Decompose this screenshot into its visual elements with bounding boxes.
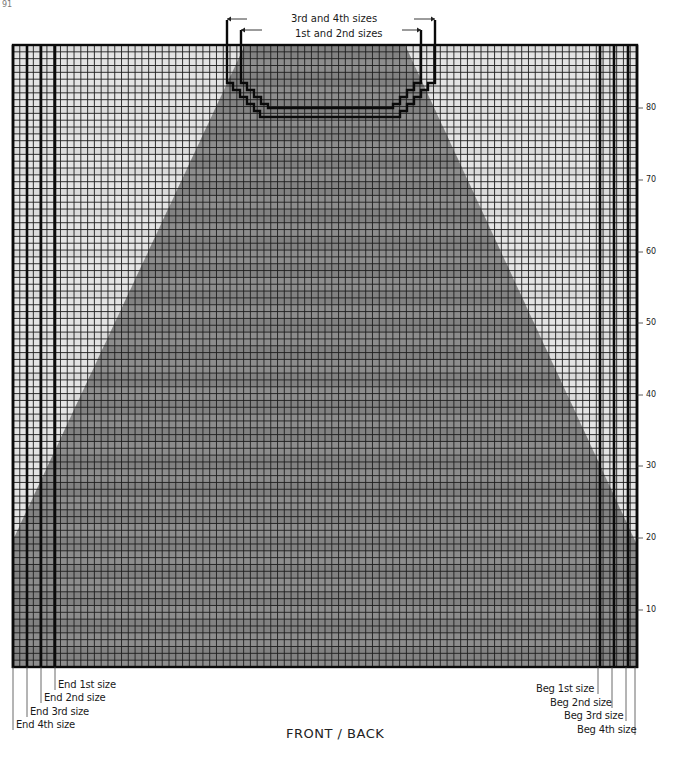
beg-size-label: Beg 3rd size — [564, 710, 623, 721]
end-size-label: End 1st size — [58, 679, 116, 690]
row-tick-label: 60 — [646, 248, 656, 256]
end-size-label: End 2nd size — [44, 692, 105, 703]
neck-inner-label: 1st and 2nd sizes — [295, 28, 383, 39]
row-tick-label: 80 — [646, 104, 656, 112]
page-number: 91 — [2, 0, 12, 9]
row-tick-label: 50 — [646, 319, 656, 327]
row-tick-label: 40 — [646, 391, 656, 399]
knitting-chart-grid — [0, 0, 674, 757]
row-tick-label: 30 — [646, 462, 656, 470]
row-tick-label: 70 — [646, 176, 656, 184]
beg-size-label: Beg 1st size — [536, 683, 594, 694]
beg-size-label: Beg 4th size — [577, 724, 636, 735]
row-tick-label: 20 — [646, 534, 656, 542]
end-size-label: End 4th size — [16, 719, 75, 730]
chart-caption: FRONT / BACK — [286, 726, 384, 741]
neck-outer-label: 3rd and 4th sizes — [291, 13, 377, 24]
row-tick-label: 10 — [646, 606, 656, 614]
end-size-label: End 3rd size — [30, 706, 89, 717]
beg-size-label: Beg 2nd size — [550, 697, 612, 708]
